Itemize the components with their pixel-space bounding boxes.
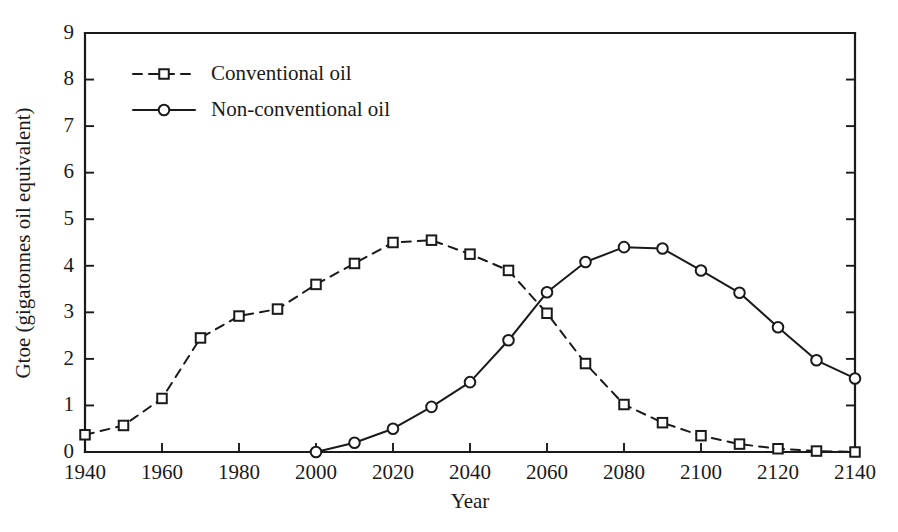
- data-point-marker-square: [159, 69, 169, 79]
- data-point-marker-circle: [619, 242, 630, 253]
- x-axis-title: Year: [451, 489, 490, 513]
- data-point-marker-square: [465, 249, 475, 259]
- data-point-marker-square: [234, 311, 244, 321]
- data-point-marker-square: [388, 238, 398, 248]
- x-tick-label: 2080: [603, 460, 645, 484]
- data-point-marker-circle: [773, 322, 784, 333]
- data-point-marker-circle: [159, 105, 170, 116]
- data-point-marker-square: [427, 235, 437, 245]
- data-point-marker-circle: [426, 402, 437, 413]
- x-tick-label: 2060: [526, 460, 568, 484]
- x-tick-label: 2020: [372, 460, 414, 484]
- data-point-marker-square: [157, 394, 167, 404]
- data-point-marker-circle: [465, 377, 476, 388]
- data-point-marker-circle: [311, 447, 322, 458]
- data-point-marker-square: [196, 333, 206, 343]
- y-tick-label: 5: [64, 206, 75, 230]
- data-point-marker-square: [119, 421, 129, 431]
- data-point-marker-circle: [542, 287, 553, 298]
- y-tick-label: 9: [64, 20, 75, 44]
- data-point-marker-square: [311, 280, 321, 290]
- data-point-marker-square: [812, 446, 822, 456]
- y-tick-label: 8: [64, 66, 75, 90]
- data-point-marker-circle: [580, 257, 591, 268]
- x-tick-label: 1940: [64, 460, 106, 484]
- data-point-marker-square: [735, 439, 745, 449]
- y-tick-label: 2: [64, 346, 75, 370]
- x-tick-label: 2040: [449, 460, 491, 484]
- data-point-marker-square: [619, 400, 629, 410]
- data-point-marker-square: [350, 259, 360, 269]
- data-point-marker-square: [696, 431, 706, 441]
- data-point-marker-square: [850, 447, 860, 457]
- x-tick-label: 2100: [680, 460, 722, 484]
- data-point-marker-square: [773, 444, 783, 454]
- y-tick-label: 7: [64, 113, 75, 137]
- data-point-marker-square: [504, 266, 514, 276]
- legend-label-2: Non-conventional oil: [211, 97, 390, 121]
- line-chart: 0123456789 19401960198020002020204020602…: [0, 0, 898, 532]
- chart-figure: 0123456789 19401960198020002020204020602…: [0, 0, 898, 532]
- data-point-marker-circle: [811, 355, 822, 366]
- data-point-marker-circle: [657, 243, 668, 254]
- y-tick-label: 3: [64, 299, 75, 323]
- data-point-marker-circle: [850, 373, 861, 384]
- data-point-marker-circle: [503, 335, 514, 346]
- y-tick-label: 0: [64, 439, 75, 463]
- y-axis-title: Gtoe (gigatonnes oil equivalent): [11, 107, 35, 378]
- legend-label-1: Conventional oil: [211, 61, 352, 85]
- x-tick-label: 2000: [295, 460, 337, 484]
- data-point-marker-circle: [388, 423, 399, 434]
- y-tick-label: 4: [64, 253, 75, 277]
- data-point-marker-square: [542, 309, 552, 319]
- x-tick-label: 1980: [218, 460, 260, 484]
- data-point-marker-square: [581, 359, 591, 369]
- data-point-marker-square: [80, 430, 90, 440]
- y-tick-label: 6: [64, 159, 75, 183]
- y-tick-label: 1: [64, 392, 75, 416]
- data-point-marker-square: [273, 304, 283, 314]
- x-tick-label: 2140: [834, 460, 876, 484]
- x-tick-label: 1960: [141, 460, 183, 484]
- data-point-marker-square: [658, 418, 668, 428]
- data-point-marker-circle: [734, 287, 745, 298]
- x-tick-label: 2120: [757, 460, 799, 484]
- data-point-marker-circle: [696, 265, 707, 276]
- data-point-marker-circle: [349, 437, 360, 448]
